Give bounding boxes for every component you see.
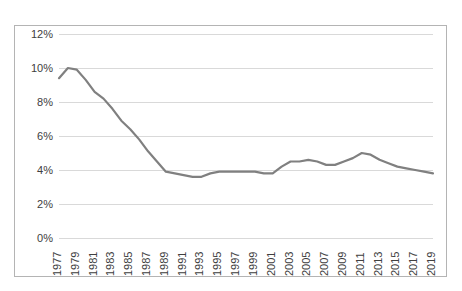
x-axis-tick-label: 2017 [408,252,419,276]
y-axis-tick-label: 4% [37,164,53,176]
x-axis-tick-label: 2011 [355,252,366,276]
x-axis-tick-label: 2007 [319,252,330,276]
line-series [59,34,433,238]
x-axis-tick-label: 1983 [105,252,116,276]
x-axis-tick-label: 1977 [52,252,63,276]
x-axis-tick-label: 2005 [301,252,312,276]
x-axis-tick-label: 1995 [212,252,223,276]
x-axis-tick-label: 1997 [230,252,241,276]
x-axis: 1977197919811983198519871989199119931995… [59,238,433,276]
y-axis-tick-label: 8% [37,96,53,108]
x-axis-tick-label: 1979 [70,252,81,276]
y-axis-tick-label: 10% [31,62,53,74]
x-axis-tick-label: 2019 [426,252,437,276]
x-axis-tick-label: 1987 [141,252,152,276]
y-axis-tick-label: 0% [37,232,53,244]
series-polyline [59,68,433,177]
x-axis-tick-label: 1999 [248,252,259,276]
x-axis-tick-label: 1993 [194,252,205,276]
chart-frame: 12%10%8%6%4%2%0% 19771979198119831985198… [14,25,447,277]
y-axis-tick-label: 2% [37,198,53,210]
x-axis-tick-label: 2009 [337,252,348,276]
x-axis-tick-label: 1981 [88,252,99,276]
x-axis-tick-label: 2013 [373,252,384,276]
plot-area: 12%10%8%6%4%2%0% [59,34,433,238]
x-axis-tick-label: 2015 [390,252,401,276]
x-axis-tick-label: 1991 [177,252,188,276]
x-axis-tick-label: 2001 [266,252,277,276]
y-axis-tick-label: 6% [37,130,53,142]
y-axis-tick-label: 12% [31,28,53,40]
x-axis-tick-label: 1989 [159,252,170,276]
x-axis-tick-label: 2003 [284,252,295,276]
x-axis-tick-label: 1985 [123,252,134,276]
